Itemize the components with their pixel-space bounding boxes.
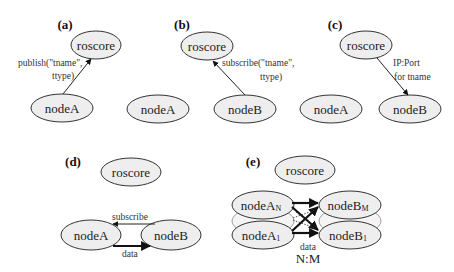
node-nodeA1: nodeA1 xyxy=(232,221,294,249)
node-nodeA-label: nodeA xyxy=(314,102,349,117)
ros-communication-diagram: (a) roscore nodeA publish("tname", ttype… xyxy=(0,0,454,272)
node-nodeA: nodeA xyxy=(31,94,93,122)
panel-label-c: (c) xyxy=(328,17,342,32)
edge-subscribe-label-line2: ttype) xyxy=(260,72,282,83)
node-nodeA: nodeA xyxy=(61,220,121,250)
node-nodeB: nodeB xyxy=(214,95,276,123)
panel-label-d: (d) xyxy=(65,154,81,169)
node-nodeB: nodeB xyxy=(379,95,441,123)
node-nodeA-label: nodeA xyxy=(45,101,80,116)
node-roscore-label: roscore xyxy=(286,163,324,178)
node-nodeA-label: nodeA xyxy=(141,102,176,117)
node-nodeA1-label: nodeA1 xyxy=(242,228,281,243)
node-nodeB-label: nodeB xyxy=(154,228,188,243)
panel-c: (c) roscore nodeA nodeB IP:Port for tnam… xyxy=(300,17,441,124)
node-nodeAN-label: nodeAN xyxy=(241,198,282,213)
node-nodeAN: nodeAN xyxy=(232,191,294,219)
node-roscore: roscore xyxy=(275,156,335,184)
node-nodeA-label: nodeA xyxy=(74,228,109,243)
node-roscore: roscore xyxy=(101,158,161,186)
panel-e: (e) roscore nodeA1 nodeAN nodeB1 nodeBM xyxy=(232,154,381,266)
panel-d: (d) roscore nodeA nodeB subscribe data xyxy=(61,154,201,260)
node-nodeB-label: nodeB xyxy=(393,102,427,117)
panel-label-b: (b) xyxy=(174,17,190,32)
node-nodeA: nodeA xyxy=(300,95,362,123)
edge-data-nm-arrows xyxy=(292,203,318,233)
node-roscore: roscore xyxy=(71,31,121,59)
edge-data-label: data xyxy=(122,249,139,259)
node-roscore-label: roscore xyxy=(347,38,385,53)
edge-ipport-label-line2: for tname xyxy=(394,72,431,82)
node-nodeB1-label: nodeB1 xyxy=(329,228,367,243)
edge-publish-label-line2: ttype) xyxy=(52,71,74,82)
node-roscore-label: roscore xyxy=(77,38,115,53)
panel-a: (a) roscore nodeA publish("tname", ttype… xyxy=(18,17,121,123)
edge-subscribe-label: subscribe xyxy=(112,212,148,222)
edge-ratio-label: N:M xyxy=(296,251,321,266)
edge-subscribe-label-line1: subscribe("tname", xyxy=(222,58,294,69)
panel-label-a: (a) xyxy=(57,17,72,32)
node-nodeB-label: nodeB xyxy=(228,102,262,117)
panel-b: (b) roscore nodeA nodeB subscribe("tname… xyxy=(127,17,294,124)
node-roscore-label: roscore xyxy=(188,39,226,54)
node-nodeA: nodeA xyxy=(127,95,189,123)
node-nodeB1: nodeB1 xyxy=(319,221,381,249)
edge-publish-label-line1: publish("tname", xyxy=(18,58,82,69)
node-roscore: roscore xyxy=(340,31,392,59)
node-roscore-label: roscore xyxy=(112,165,150,180)
node-nodeBM: nodeBM xyxy=(319,191,381,219)
edge-ipport-label-line1: IP:Port xyxy=(393,58,420,68)
panel-label-e: (e) xyxy=(246,154,260,169)
node-roscore: roscore xyxy=(181,32,233,60)
